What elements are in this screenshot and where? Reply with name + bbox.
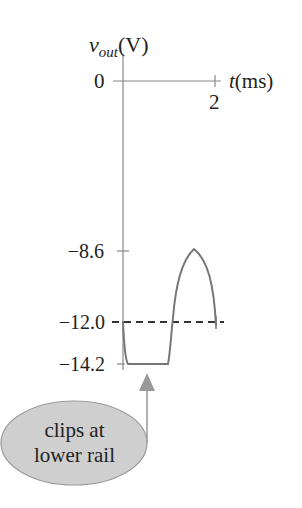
y-tick-label-m142: −14.2 [35,354,105,374]
y-axis-title-unit: (V) [118,32,149,57]
callout-line-2: lower rail [34,443,115,468]
y-tick-label-m86: −8.6 [34,241,104,261]
x-axis-title-unit: (ms) [235,69,274,93]
y-axis-title: vout(V) [89,34,148,56]
callout-arrow-head [139,373,155,391]
y-axis-title-var: v [89,32,99,57]
x-axis-title: t(ms) [229,71,273,92]
callout-text: clips at lower rail [0,401,149,485]
y-axis-title-sub: out [99,44,118,60]
vout-curve [123,249,216,364]
callout-line-1: clips at [44,418,104,443]
y-tick-label-0: 0 [94,71,105,92]
y-tick-label-m12: −12.0 [35,312,105,332]
x-tick-label-2: 2 [209,92,220,113]
